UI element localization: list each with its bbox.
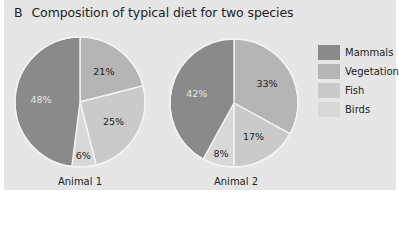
pie-value-label: 6% xyxy=(76,150,91,161)
legend-swatch xyxy=(318,102,340,117)
pie-value-label: 17% xyxy=(243,131,264,142)
legend-item-birds: Birds xyxy=(318,100,399,119)
pie-value-label: 21% xyxy=(93,66,114,77)
legend: Mammals Vegetation Fish Birds xyxy=(318,43,399,119)
legend-label: Vegetation xyxy=(345,66,399,77)
pie-chart-animal-1: 21%25%6%48% xyxy=(15,37,145,167)
legend-label: Fish xyxy=(345,85,364,96)
pie-label-animal-1: Animal 1 xyxy=(58,176,102,187)
pie-value-label: 25% xyxy=(103,116,124,127)
legend-item-vegetation: Vegetation xyxy=(318,62,399,81)
legend-label: Mammals xyxy=(345,47,393,58)
pie-value-label: 8% xyxy=(213,148,228,159)
legend-swatch xyxy=(318,64,340,79)
pie-value-label: 33% xyxy=(256,78,277,89)
legend-swatch xyxy=(318,45,340,60)
pie-value-label: 48% xyxy=(31,94,52,105)
pie-label-animal-2: Animal 2 xyxy=(214,176,258,187)
pie-chart-animal-2: 33%17%8%42% xyxy=(170,39,298,167)
legend-swatch xyxy=(318,83,340,98)
pie-value-label: 42% xyxy=(186,88,207,99)
legend-item-mammals: Mammals xyxy=(318,43,399,62)
legend-item-fish: Fish xyxy=(318,81,399,100)
legend-label: Birds xyxy=(345,104,370,115)
